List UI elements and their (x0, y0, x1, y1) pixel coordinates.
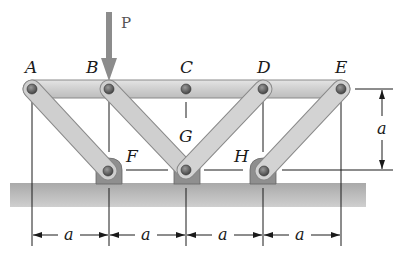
dim-label-2: a (141, 225, 151, 244)
dim-label-4: a (295, 225, 305, 244)
joint-label-C: C (180, 57, 193, 77)
pin-C (181, 84, 191, 94)
joint-label-F: F (125, 146, 139, 166)
dim-label-1: a (64, 225, 74, 244)
load-label: P (121, 14, 131, 32)
pin-E (336, 84, 346, 94)
extension-lines (32, 89, 393, 246)
truss-diagram: P A B C D E F G H a a a a a (0, 0, 407, 260)
joint-label-E: E (334, 57, 348, 77)
pin-G (181, 165, 191, 175)
ground (10, 183, 366, 207)
member-DG (186, 89, 263, 170)
member-EH (264, 89, 341, 171)
dim-label-3: a (218, 225, 228, 244)
joint-label-A: A (23, 57, 37, 77)
pin-H (259, 166, 269, 176)
member-AF (32, 89, 108, 171)
pin-A (27, 84, 37, 94)
load-arrow-icon (101, 12, 117, 81)
joint-label-G: G (179, 126, 193, 146)
dim-label-vertical: a (377, 119, 387, 138)
pin-F (103, 166, 113, 176)
pin-D (258, 84, 268, 94)
pin-B (104, 84, 114, 94)
joint-label-B: B (85, 57, 99, 77)
joint-label-H: H (233, 146, 250, 166)
member-BG (109, 89, 186, 170)
joint-label-D: D (256, 57, 271, 77)
